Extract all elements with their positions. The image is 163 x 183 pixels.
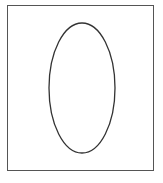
ellipse-shape [49,23,115,153]
diagram-canvas [0,0,163,183]
